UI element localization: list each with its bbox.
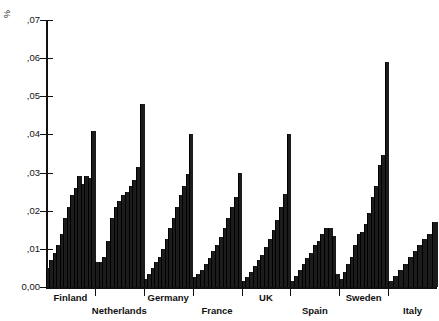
y-tick-label: ,05: [0, 90, 40, 101]
bar: [189, 134, 193, 287]
y-tick-label: ,02: [0, 205, 40, 216]
x-category-label-uk: UK: [226, 292, 306, 303]
bar: [385, 62, 389, 287]
x-category-label-netherlands: Netherlands: [79, 305, 159, 316]
x-category-label-germany: Germany: [128, 292, 208, 303]
chart-root: % 0,00,01,02,03,04,05,06,07 FinlandNethe…: [0, 0, 439, 321]
bar: [238, 173, 243, 287]
bar: [432, 222, 438, 287]
x-category-label-spain: Spain: [275, 305, 355, 316]
bar: [140, 104, 145, 287]
y-tick-label: ,06: [0, 52, 40, 63]
x-category-label-sweden: Sweden: [324, 292, 404, 303]
x-category-label-finland: Finland: [30, 292, 110, 303]
y-tick-label: ,01: [0, 243, 40, 254]
y-tick-mark: [40, 287, 53, 288]
y-tick-label: ,04: [0, 128, 40, 139]
x-category-label-france: France: [177, 305, 257, 316]
x-category-label-italy: Italy: [373, 305, 439, 316]
y-tick-label: ,07: [0, 14, 40, 25]
y-tick-label: ,03: [0, 167, 40, 178]
y-tick-label: 0,00: [0, 281, 40, 292]
bar-series: [46, 20, 437, 287]
bar: [287, 134, 292, 287]
